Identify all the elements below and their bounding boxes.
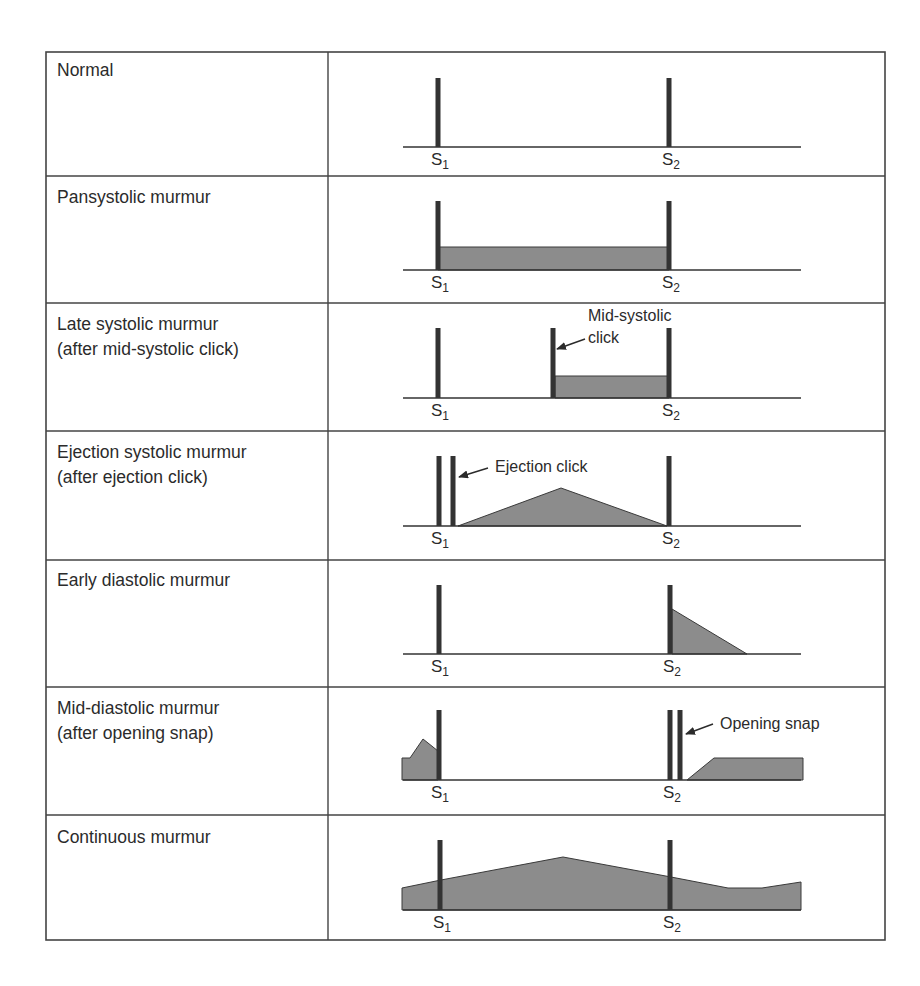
heart-sound-bar xyxy=(438,840,443,910)
s2-label: S2 xyxy=(662,274,680,292)
heart-sound-bar xyxy=(437,710,442,780)
annotation-label: Opening snap xyxy=(720,713,820,735)
murmur-shape xyxy=(402,739,438,780)
heart-sound-bar xyxy=(667,78,672,147)
murmur-shape xyxy=(438,247,669,270)
s2-subscript: 2 xyxy=(673,409,680,423)
heart-sound-bar xyxy=(667,456,672,526)
murmur-shape xyxy=(672,609,747,654)
row-label: Normal xyxy=(57,58,325,83)
s1-label: S1 xyxy=(433,914,451,932)
annotation-label: Mid-systolic click xyxy=(588,305,672,349)
row-label: Mid-diastolic murmur (after opening snap… xyxy=(57,696,325,746)
heart-sound-bar xyxy=(436,201,441,270)
s2-label: S2 xyxy=(662,530,680,548)
s1-subscript: 1 xyxy=(442,791,449,805)
row-label: Pansystolic murmur xyxy=(57,185,325,210)
s1-subscript: 1 xyxy=(442,281,449,295)
s1-label: S1 xyxy=(431,274,449,292)
s1-subscript: 1 xyxy=(442,537,449,551)
heart-sound-bar xyxy=(437,585,442,654)
heart-sound-bar xyxy=(436,328,441,398)
s1-label: S1 xyxy=(431,784,449,802)
s2-subscript: 2 xyxy=(674,665,681,679)
heart-sound-bar xyxy=(667,201,672,270)
heart-sound-bar xyxy=(668,840,673,910)
murmur-shape xyxy=(458,488,667,526)
heart-sound-bar xyxy=(437,456,442,526)
s1-label: S1 xyxy=(431,658,449,676)
annotation-arrow-icon xyxy=(686,724,713,734)
heart-sound-bar xyxy=(668,585,673,654)
s2-letter: S xyxy=(663,657,674,676)
s1-label: S1 xyxy=(431,530,449,548)
s1-label: S1 xyxy=(431,402,449,420)
s1-letter: S xyxy=(431,401,442,420)
s2-subscript: 2 xyxy=(674,921,681,935)
s1-letter: S xyxy=(431,657,442,676)
annotation-arrow-icon xyxy=(459,468,488,477)
s2-label: S2 xyxy=(663,784,681,802)
s1-subscript: 1 xyxy=(442,158,449,172)
s1-letter: S xyxy=(431,529,442,548)
s1-letter: S xyxy=(431,273,442,292)
s1-letter: S xyxy=(431,150,442,169)
row-label: Early diastolic murmur xyxy=(57,568,325,593)
s2-letter: S xyxy=(662,529,673,548)
heart-sound-bar xyxy=(678,710,683,780)
s1-subscript: 1 xyxy=(444,921,451,935)
row-label: Late systolic murmur (after mid-systolic… xyxy=(57,312,325,362)
s2-subscript: 2 xyxy=(673,281,680,295)
s2-label: S2 xyxy=(663,658,681,676)
s2-letter: S xyxy=(662,273,673,292)
heart-sound-bar xyxy=(436,78,441,147)
s1-subscript: 1 xyxy=(442,409,449,423)
s2-subscript: 2 xyxy=(673,158,680,172)
s2-letter: S xyxy=(662,150,673,169)
murmur-shape xyxy=(555,376,669,398)
s2-label: S2 xyxy=(662,151,680,169)
murmur-shape xyxy=(687,758,803,780)
s2-subscript: 2 xyxy=(673,537,680,551)
heart-sound-bar xyxy=(551,328,556,398)
s2-letter: S xyxy=(663,913,674,932)
heart-sound-bar xyxy=(668,710,673,780)
heart-sound-bar xyxy=(451,456,456,526)
s1-label: S1 xyxy=(431,151,449,169)
s1-subscript: 1 xyxy=(442,665,449,679)
s1-letter: S xyxy=(433,913,444,932)
annotation-label: Ejection click xyxy=(495,456,587,478)
annotation-arrow-icon xyxy=(557,339,585,349)
row-label: Continuous murmur xyxy=(57,825,325,850)
s2-letter: S xyxy=(663,783,674,802)
s1-letter: S xyxy=(431,783,442,802)
s2-label: S2 xyxy=(663,914,681,932)
s2-label: S2 xyxy=(662,402,680,420)
s2-subscript: 2 xyxy=(674,791,681,805)
s2-letter: S xyxy=(662,401,673,420)
murmur-shape xyxy=(402,857,801,910)
row-label: Ejection systolic murmur (after ejection… xyxy=(57,440,325,490)
